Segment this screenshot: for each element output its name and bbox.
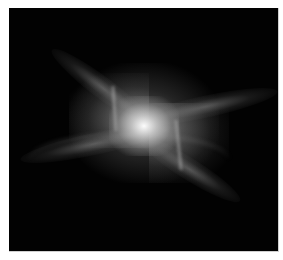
nebula-arm-upper-right: [128, 81, 279, 134]
nebula-arm-lower-right: [132, 128, 245, 210]
nebula-halo: [69, 63, 219, 183]
nebula-cone-right: [149, 103, 229, 183]
nebula-image: [9, 8, 279, 252]
nebula-rung: [174, 120, 182, 170]
nebula-cone-left: [69, 73, 149, 148]
nebula-arm-upper-left: [45, 41, 162, 137]
nebula-rung: [111, 86, 117, 131]
nebula-core: [109, 96, 179, 156]
nebula-lower-arc: [29, 133, 229, 186]
nebula-arm-lower-left: [18, 118, 169, 171]
